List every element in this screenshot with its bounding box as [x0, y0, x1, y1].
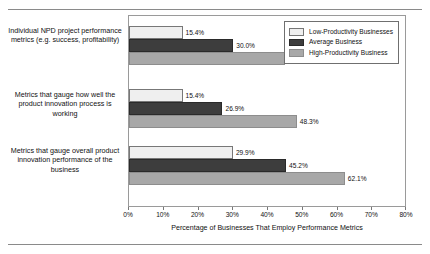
legend-item-high-productivity: High-Productivity Business — [289, 48, 393, 58]
bar-average — [129, 39, 233, 52]
bar-row: 29.9% — [129, 146, 405, 159]
category-label-1: Metrics that gauge how well the product … — [6, 90, 124, 118]
bar-value-label: 48.3% — [300, 117, 319, 126]
bar-value-label: 62.1% — [348, 174, 367, 183]
bar-low-productivity — [129, 26, 183, 39]
bar-group-1: 15.4% 26.9% 48.3% — [129, 89, 405, 133]
bar-value-label: 15.4% — [186, 28, 205, 37]
bar-row: 15.4% — [129, 89, 405, 102]
page-rule-bottom — [8, 244, 422, 245]
plot-area: 15.4% 30.0% 44.8% 15.4% 26.9% — [128, 15, 406, 207]
x-axis-tick-label: 50% — [295, 210, 308, 219]
plot-inner: 15.4% 30.0% 44.8% 15.4% 26.9% — [129, 16, 405, 206]
legend-item-low-productivity: Low-Productivity Businesses — [289, 27, 393, 37]
bar-row: 26.9% — [129, 102, 405, 115]
legend-item-average: Average Business — [289, 38, 393, 48]
legend-label: Low-Productivity Businesses — [309, 28, 393, 36]
x-axis-tick-label: 80% — [399, 210, 412, 219]
bar-row: 45.2% — [129, 159, 405, 172]
legend-swatch-icon — [289, 49, 304, 57]
x-axis-tick-label: 20% — [191, 210, 204, 219]
x-axis-title: Percentage of Businesses That Employ Per… — [128, 223, 406, 233]
bar-average — [129, 102, 222, 115]
bar-low-productivity — [129, 146, 233, 159]
bar-value-label: 30.0% — [236, 41, 255, 50]
category-label-2: Metrics that gauge overall product innov… — [6, 146, 124, 174]
bar-high-productivity — [129, 115, 297, 128]
category-label-0: Individual NPD project performance metri… — [6, 26, 124, 45]
x-axis-tick-label: 60% — [330, 210, 343, 219]
bar-group-2: 29.9% 45.2% 62.1% — [129, 146, 405, 190]
legend-label: Average Business — [309, 38, 362, 46]
x-axis-tick-label: 10% — [156, 210, 169, 219]
legend-label: High-Productivity Business — [309, 49, 387, 57]
bar-high-productivity — [129, 172, 345, 185]
category-axis-labels: Individual NPD project performance metri… — [4, 12, 126, 208]
x-axis-tick-label: 30% — [226, 210, 239, 219]
bar-average — [129, 159, 286, 172]
page-rule-top — [8, 9, 422, 10]
bar-low-productivity — [129, 89, 183, 102]
bar-value-label: 15.4% — [186, 91, 205, 100]
x-axis-tick-label: 70% — [365, 210, 378, 219]
bar-high-productivity — [129, 52, 285, 65]
x-axis-tick-label: 0% — [123, 210, 133, 219]
legend-swatch-icon — [289, 39, 304, 47]
chart-legend: Low-Productivity Businesses Average Busi… — [284, 21, 399, 64]
legend-swatch-icon — [289, 28, 304, 36]
bar-value-label: 26.9% — [225, 104, 244, 113]
x-axis-tick-label: 40% — [260, 210, 273, 219]
bar-row: 48.3% — [129, 115, 405, 128]
bar-value-label: 29.9% — [236, 148, 255, 157]
bar-chart-figure: Individual NPD project performance metri… — [0, 12, 430, 242]
bar-row: 62.1% — [129, 172, 405, 185]
x-axis: 0%10%20%30%40%50%60%70%80% — [128, 207, 406, 221]
bar-value-label: 45.2% — [289, 161, 308, 170]
